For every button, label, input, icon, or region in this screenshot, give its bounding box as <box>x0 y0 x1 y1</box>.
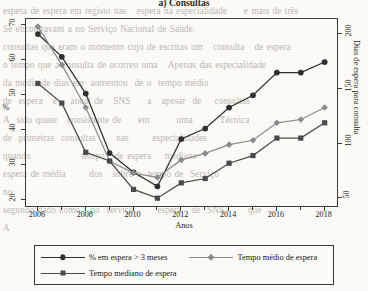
y-axis-left-tick-label: 60 <box>8 54 17 62</box>
square-marker-icon <box>41 268 85 278</box>
y-axis-left-tick <box>21 199 25 200</box>
data-point-marker <box>298 135 303 140</box>
y-axis-right-tick-label: 200 <box>344 25 353 37</box>
legend-row-1: % em espera > 3 meses Tempo médio de esp… <box>41 249 327 265</box>
x-axis-minor-tick <box>156 207 157 210</box>
legend-marker-glyph <box>60 254 65 259</box>
data-point-marker <box>322 120 327 125</box>
data-point-marker <box>35 23 42 30</box>
chart-legend: % em espera > 3 meses Tempo médio de esp… <box>34 245 334 285</box>
x-axis-tick-label: 2012 <box>160 210 200 219</box>
y-axis-left-tick <box>21 164 25 165</box>
circle-marker-icon <box>41 252 85 262</box>
y-axis-left-tick <box>21 94 25 95</box>
x-axis-tick-label: 2018 <box>304 210 344 219</box>
y-axis-left-tick <box>21 59 25 60</box>
data-point-marker <box>35 31 41 37</box>
series-line-1 <box>38 34 325 186</box>
data-point-marker <box>83 150 88 155</box>
y-axis-left-tick <box>21 24 25 25</box>
data-point-marker <box>274 70 280 76</box>
y-axis-right-tick-label: 150 <box>344 79 353 91</box>
x-axis-minor-tick <box>252 207 253 210</box>
data-point-marker <box>59 62 66 69</box>
y-axis-left-tick-label: 40 <box>8 124 17 132</box>
data-point-marker <box>179 180 184 185</box>
legend-label: Tempo mediano de espera <box>89 269 177 278</box>
data-point-marker <box>82 104 89 111</box>
y-axis-left-tick <box>21 129 25 130</box>
data-point-marker <box>59 54 65 60</box>
x-axis-minor-tick <box>300 207 301 210</box>
legend-item-tempo-mediano: Tempo mediano de espera <box>41 268 177 278</box>
y-axis-left-tick-label: 30 <box>8 159 17 167</box>
legend-item-pct-espera: % em espera > 3 meses <box>41 252 167 262</box>
y-axis-left-tick-label: 20 <box>8 194 17 202</box>
y-axis-left-tick-label: 70 <box>8 19 17 27</box>
data-point-marker <box>298 70 304 76</box>
data-point-marker <box>59 101 64 106</box>
legend-label: Tempo médio de espera <box>237 253 317 262</box>
data-point-marker <box>131 187 136 192</box>
y-axis-right-tick <box>338 33 342 34</box>
data-point-marker <box>155 183 161 189</box>
data-point-marker <box>202 150 209 157</box>
data-point-marker <box>322 59 328 65</box>
y-axis-right-tick <box>338 88 342 89</box>
x-axis-tick-label: 2010 <box>113 210 153 219</box>
plot-area <box>25 18 338 207</box>
legend-label: % em espera > 3 meses <box>89 253 167 262</box>
data-point-marker <box>250 153 255 158</box>
legend-item-tempo-medio: Tempo médio de espera <box>189 252 317 262</box>
y-axis-left-title: % <box>0 103 16 112</box>
y-axis-right-title: Dias de espera para consulta <box>352 40 361 134</box>
series-line-2 <box>38 27 325 178</box>
x-axis-tick-label: 2008 <box>65 210 105 219</box>
x-axis-title: Anos <box>0 221 368 230</box>
data-point-marker <box>274 135 279 140</box>
data-point-marker <box>250 92 256 98</box>
legend-row-2: Tempo mediano de espera <box>41 265 327 281</box>
data-point-marker <box>83 91 89 97</box>
data-point-marker <box>226 105 232 111</box>
diamond-marker-icon <box>189 252 233 262</box>
data-point-marker <box>202 126 208 132</box>
x-axis-tick-label: 2014 <box>208 210 248 219</box>
data-point-marker <box>107 158 112 163</box>
y-axis-right-tick-label: 100 <box>344 134 353 146</box>
data-point-marker <box>155 196 160 201</box>
x-axis-tick-label: 2016 <box>256 210 296 219</box>
y-axis-left-tick-label: 50 <box>8 89 17 97</box>
x-axis-tick-label: 2006 <box>17 210 57 219</box>
data-point-marker <box>203 176 208 181</box>
figure-consultas: a) Consultas % Dias de espera para consu… <box>0 0 368 291</box>
data-point-marker <box>35 81 40 86</box>
legend-marker-glyph <box>61 271 66 276</box>
legend-marker-glyph <box>208 254 214 260</box>
x-axis-minor-tick <box>109 207 110 210</box>
x-axis-minor-tick <box>204 207 205 210</box>
data-point-marker <box>226 141 233 148</box>
y-axis-right-tick <box>338 143 342 144</box>
data-point-marker <box>321 104 328 111</box>
data-point-marker <box>297 116 304 123</box>
chart-title: a) Consultas <box>0 0 368 8</box>
x-axis-minor-tick <box>61 207 62 210</box>
data-point-marker <box>226 161 231 166</box>
data-point-marker <box>178 136 184 142</box>
y-axis-right-tick-label: 50 <box>342 191 351 199</box>
plot-series-canvas <box>25 18 338 207</box>
